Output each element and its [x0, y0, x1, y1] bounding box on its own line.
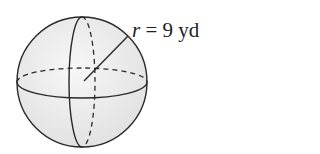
radius-label: r = 9 yd	[132, 18, 199, 43]
radius-symbol: r	[132, 18, 140, 42]
radius-unit: yd	[178, 18, 199, 42]
radius-value: 9	[163, 18, 174, 42]
equals-sign: =	[145, 18, 157, 42]
